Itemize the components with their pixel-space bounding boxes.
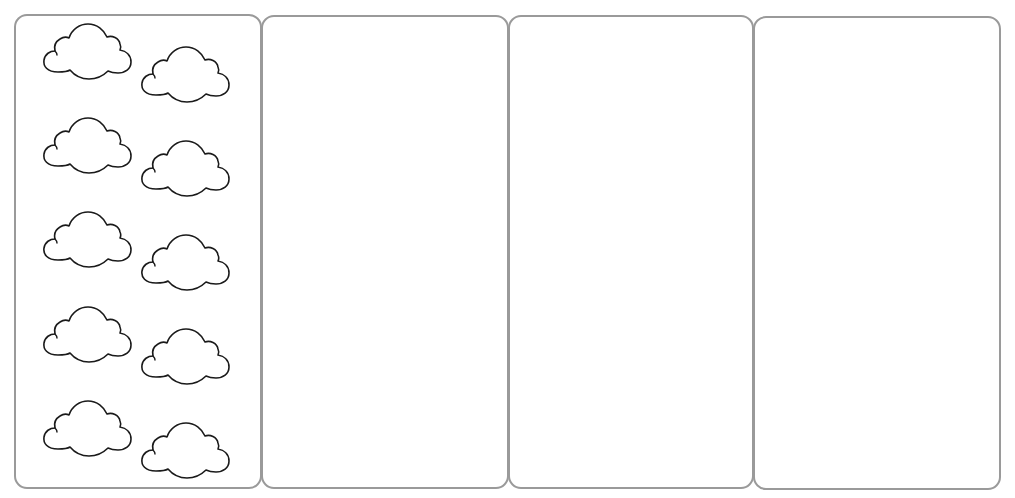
cloud-icon bbox=[140, 139, 230, 197]
cloud-icon bbox=[42, 116, 132, 174]
cloud-icon bbox=[42, 305, 132, 363]
cloud-icon bbox=[140, 421, 230, 479]
panel-3 bbox=[508, 15, 754, 489]
panel-4 bbox=[753, 16, 1001, 490]
cloud-icon bbox=[140, 45, 230, 103]
panel-2 bbox=[261, 15, 509, 489]
cloud-icon bbox=[140, 327, 230, 385]
cloud-icon bbox=[42, 22, 132, 80]
cloud-icon bbox=[42, 210, 132, 268]
cloud-icon bbox=[42, 399, 132, 457]
cloud-icon bbox=[140, 233, 230, 291]
